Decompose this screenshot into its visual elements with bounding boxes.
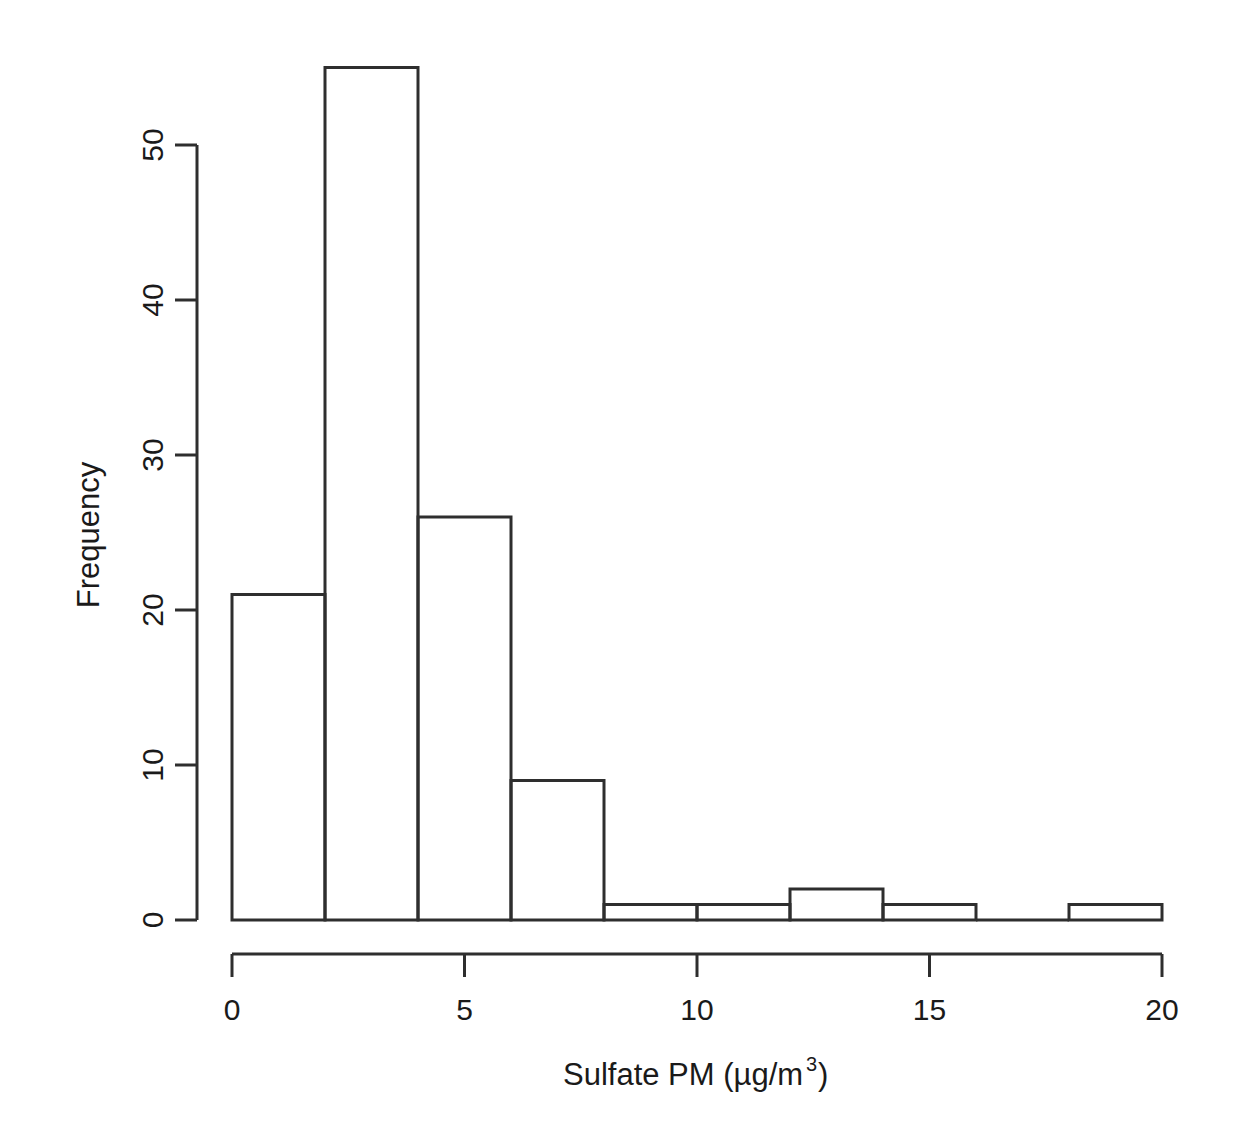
- y-axis-ticks: [175, 145, 197, 920]
- x-tick-label-15: 15: [913, 993, 946, 1026]
- y-tick-label-40: 40: [136, 283, 169, 316]
- bar-bin-6-8: [511, 781, 604, 921]
- bar-bin-14-16: [883, 905, 976, 921]
- y-tick-label-20: 20: [136, 593, 169, 626]
- x-tick-label-10: 10: [680, 993, 713, 1026]
- bar-bin-0-2: [232, 595, 325, 921]
- bar-bin-8-10: [604, 905, 697, 921]
- y-tick-label-30: 30: [136, 438, 169, 471]
- histogram-figure: 0 10 20 30 40 50 Frequency: [0, 0, 1236, 1147]
- plot-canvas: 0 10 20 30 40 50 Frequency: [0, 0, 1236, 1147]
- x-tick-label-0: 0: [224, 993, 241, 1026]
- x-axis-ticks: [232, 954, 1162, 977]
- x-axis-tick-labels: 0 5 10 15 20: [224, 993, 1179, 1026]
- x-axis-title-superscript: 3: [806, 1053, 817, 1075]
- y-tick-label-0: 0: [136, 912, 169, 929]
- histogram-bars: [232, 68, 1162, 921]
- y-tick-label-50: 50: [136, 128, 169, 161]
- y-tick-label-10: 10: [136, 748, 169, 781]
- bar-bin-12-14: [790, 889, 883, 920]
- x-axis-title: Sulfate PM (µg/m 3 ): [563, 1053, 828, 1092]
- x-axis-title-main: Sulfate PM (µg/m: [563, 1057, 803, 1092]
- bar-bin-2-4: [325, 68, 418, 921]
- y-axis-title: Frequency: [71, 461, 106, 608]
- bar-bin-4-6: [418, 517, 511, 920]
- bar-bin-10-12: [697, 905, 790, 921]
- y-axis-tick-labels: 0 10 20 30 40 50: [136, 128, 169, 928]
- x-tick-label-5: 5: [456, 993, 473, 1026]
- x-axis-title-tail: ): [818, 1057, 828, 1092]
- x-tick-label-20: 20: [1145, 993, 1178, 1026]
- bar-bin-18-20: [1069, 905, 1162, 921]
